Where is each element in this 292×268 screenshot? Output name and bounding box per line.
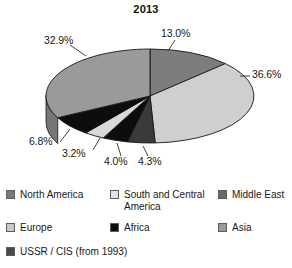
legend-label-middle-east: Middle East	[232, 189, 284, 201]
chart-title: 2013	[0, 3, 292, 15]
leader-line-329	[70, 45, 86, 56]
slice-label-68: 6.8%	[29, 135, 53, 147]
legend-item-ussr-cis[interactable]: USSR / CIS (from 1993)	[6, 246, 186, 258]
legend-item-asia[interactable]: Asia	[218, 222, 292, 234]
slice-label-366: 36.6%	[252, 68, 281, 80]
legend-label-asia: Asia	[232, 222, 251, 234]
legend-swatch-africa	[110, 223, 119, 232]
legend-label-africa: Africa	[124, 222, 150, 234]
legend-label-europe: Europe	[20, 222, 52, 234]
legend-swatch-ussr-cis	[6, 247, 15, 256]
legend-swatch-asia	[218, 223, 227, 232]
legend-label-ussr-cis: USSR / CIS (from 1993)	[20, 246, 127, 258]
pie-chart-figure: 2013 13.0% 36.6% 4.3% 4.0% 3.2% 6.8% 32.…	[0, 0, 292, 268]
legend-item-south-and-central-america[interactable]: South and Central America	[110, 189, 206, 213]
legend-item-north-america[interactable]: North America	[6, 189, 106, 201]
legend-item-europe[interactable]: Europe	[6, 222, 106, 234]
legend-swatch-middle-east	[218, 190, 227, 199]
slice-label-43: 4.3%	[138, 155, 162, 167]
legend-swatch-north-america	[6, 190, 15, 199]
slice-label-32: 3.2%	[62, 147, 86, 159]
legend-label-south-and-central-america: South and Central America	[124, 189, 206, 213]
chart-legend: North America South and Central America …	[6, 189, 292, 265]
leader-line-13	[168, 40, 175, 51]
legend-swatch-europe	[6, 223, 15, 232]
slice-label-329: 32.9%	[44, 34, 73, 46]
legend-item-africa[interactable]: Africa	[110, 222, 206, 234]
leader-line-32	[93, 138, 100, 150]
legend-label-north-america: North America	[20, 189, 83, 201]
legend-item-middle-east[interactable]: Middle East	[218, 189, 292, 201]
leader-line-68	[60, 129, 70, 142]
legend-swatch-south-and-central-america	[110, 190, 119, 199]
slice-label-13: 13.0%	[161, 27, 190, 39]
slice-label-40: 4.0%	[104, 155, 128, 167]
